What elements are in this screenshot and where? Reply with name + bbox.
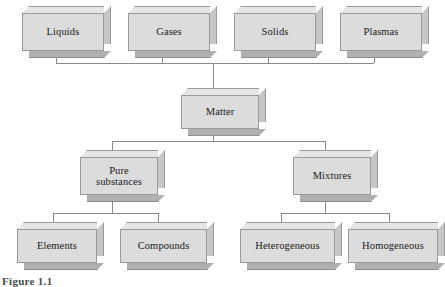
node-label: Heterogeneous [252, 240, 322, 252]
box-top-face [181, 88, 259, 95]
box-bottom-face [127, 263, 214, 270]
node-elements[interactable]: Elements [17, 229, 97, 263]
node-label: Homogeneous [359, 240, 427, 252]
node-label: Matter [203, 106, 238, 118]
box-top-face [240, 222, 335, 229]
box-front-face: Compounds [120, 229, 207, 263]
node-label: Compounds [135, 240, 193, 252]
box-bottom-face [24, 263, 104, 270]
node-pure-substances[interactable]: Pure substances [80, 157, 158, 195]
box-bottom-face [347, 51, 429, 58]
node-mixtures[interactable]: Mixtures [293, 157, 371, 195]
box-front-face: Elements [17, 229, 97, 263]
box-top-face [293, 150, 371, 157]
box-top-face [80, 150, 158, 157]
box-top-face [120, 222, 207, 229]
node-label: Solids [259, 26, 292, 38]
box-front-face: Plasmas [340, 13, 422, 51]
box-top-face [17, 222, 97, 229]
box-bottom-face [135, 51, 217, 58]
node-solids[interactable]: Solids [234, 13, 316, 51]
box-front-face: Mixtures [293, 157, 371, 195]
box-bottom-face [247, 263, 342, 270]
box-front-face: Heterogeneous [240, 229, 335, 263]
node-label: Liquids [44, 26, 83, 38]
node-label: Pure substances [93, 165, 145, 188]
node-compounds[interactable]: Compounds [120, 229, 207, 263]
box-bottom-face [355, 263, 445, 270]
node-label: Elements [34, 240, 80, 252]
node-homogeneous[interactable]: Homogeneous [348, 229, 438, 263]
node-liquids[interactable]: Liquids [22, 13, 104, 51]
box-front-face: Liquids [22, 13, 104, 51]
box-front-face: Matter [181, 95, 259, 129]
box-top-face [348, 222, 438, 229]
node-matter[interactable]: Matter [181, 95, 259, 129]
box-bottom-face [87, 195, 165, 202]
node-heterogeneous[interactable]: Heterogeneous [240, 229, 335, 263]
figure-caption: Figure 1.1 [2, 275, 52, 287]
node-plasmas[interactable]: Plasmas [340, 13, 422, 51]
box-bottom-face [29, 51, 111, 58]
node-label: Mixtures [310, 170, 355, 182]
box-top-face [234, 6, 316, 13]
box-front-face: Solids [234, 13, 316, 51]
box-top-face [22, 6, 104, 13]
box-front-face: Homogeneous [348, 229, 438, 263]
box-front-face: Gases [128, 13, 210, 51]
box-bottom-face [300, 195, 378, 202]
box-bottom-face [241, 51, 323, 58]
box-front-face: Pure substances [80, 157, 158, 195]
node-gases[interactable]: Gases [128, 13, 210, 51]
node-label: Gases [153, 26, 185, 38]
box-top-face [128, 6, 210, 13]
box-bottom-face [188, 129, 266, 136]
node-label: Plasmas [360, 26, 401, 38]
box-top-face [340, 6, 422, 13]
